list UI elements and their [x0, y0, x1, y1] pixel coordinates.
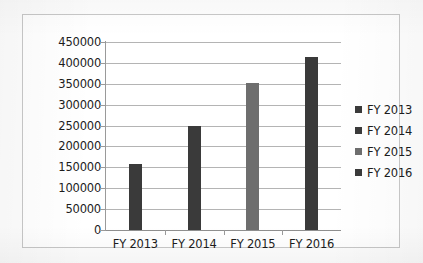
- legend-item: FY 2015: [355, 141, 419, 162]
- legend-label: FY 2015: [367, 145, 412, 159]
- legend-swatch-icon: [355, 127, 362, 134]
- y-axis-tick-label: 50000: [65, 202, 101, 216]
- y-axis-tick-mark: [100, 146, 105, 147]
- plot-area: [106, 42, 341, 230]
- y-axis-tick-label: 100000: [58, 181, 101, 195]
- y-axis-tick-mark: [100, 126, 105, 127]
- bar: [188, 126, 201, 230]
- x-axis-tick-mark: [165, 230, 166, 235]
- y-axis-tick-label: 350000: [58, 77, 101, 91]
- x-axis-category-label: FY 2015: [230, 237, 275, 251]
- y-axis-tick-mark: [100, 167, 105, 168]
- legend-item: FY 2013: [355, 99, 419, 120]
- legend-label: FY 2016: [367, 166, 412, 180]
- y-axis-tick-label: 450000: [58, 35, 101, 49]
- y-axis-tick-label: 200000: [58, 139, 101, 153]
- legend-item: FY 2014: [355, 120, 419, 141]
- legend-swatch-icon: [355, 106, 362, 113]
- legend-label: FY 2013: [367, 103, 412, 117]
- legend-swatch-icon: [355, 148, 362, 155]
- y-axis-tick-mark: [100, 188, 105, 189]
- y-axis-tick-mark: [100, 209, 105, 210]
- y-axis-tick-label: 250000: [58, 119, 101, 133]
- y-axis-tick-label: 150000: [58, 160, 101, 174]
- legend-label: FY 2014: [367, 124, 412, 138]
- legend-swatch-icon: [355, 169, 362, 176]
- chart-frame: 0500001000001500002000002500003000003500…: [22, 14, 400, 248]
- legend-item: FY 2016: [355, 162, 419, 183]
- x-axis-category-label: FY 2013: [113, 237, 158, 251]
- x-axis-labels: FY 2013FY 2014FY 2015FY 2016: [106, 237, 341, 257]
- bar-series: [106, 42, 341, 230]
- chart-legend: FY 2013FY 2014FY 2015FY 2016: [355, 99, 419, 183]
- y-axis-tick-label: 400000: [58, 56, 101, 70]
- scanned-page-background: 0500001000001500002000002500003000003500…: [0, 0, 423, 263]
- x-axis-category-label: FY 2016: [289, 237, 334, 251]
- y-axis-tick-mark: [100, 105, 105, 106]
- y-axis-tick-label: 300000: [58, 98, 101, 112]
- y-axis-tick-mark: [100, 84, 105, 85]
- y-axis-labels: 0500001000001500002000002500003000003500…: [49, 15, 101, 247]
- y-axis-tick-mark: [100, 63, 105, 64]
- bar: [129, 164, 142, 230]
- y-axis-tick-mark: [100, 42, 105, 43]
- x-axis-category-label: FY 2014: [172, 237, 217, 251]
- x-axis-tick-mark: [282, 230, 283, 235]
- bar: [305, 57, 318, 230]
- y-axis-tick-mark: [100, 230, 105, 231]
- x-axis-tick-mark: [224, 230, 225, 235]
- bar: [246, 83, 259, 230]
